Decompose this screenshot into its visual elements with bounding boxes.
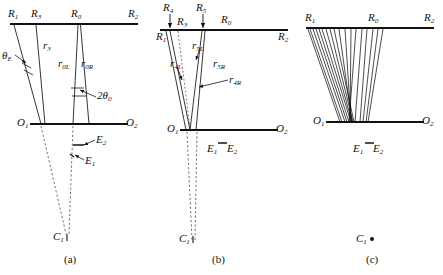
panel-c-label-C1: C1 xyxy=(356,233,367,246)
panel-c-caption: (c) xyxy=(366,253,378,265)
figure-root: R1 R3 R0 R2 r3 r0L r0R θE 2θ0 O1 O2 E2 E… xyxy=(0,0,443,275)
panel-c-emitter-bar-layer xyxy=(0,0,443,275)
